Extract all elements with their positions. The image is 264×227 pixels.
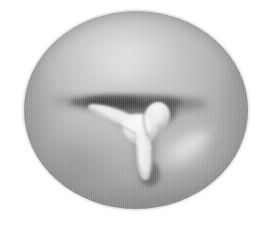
figure-canvas: Grayscale shaded rendering of an ellipso… bbox=[0, 0, 264, 227]
ellipsoid-render-svg bbox=[0, 0, 264, 227]
